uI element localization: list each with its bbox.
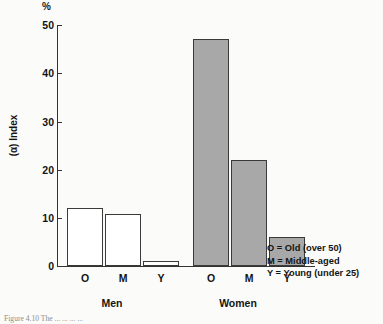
figure-caption: Figure 4.10 The ... ... ... ... bbox=[4, 315, 304, 324]
y-tick-label-10: 10 bbox=[28, 213, 54, 224]
cat-label-women-middle: M bbox=[238, 272, 260, 284]
figure-caption-text: Figure 4.10 The ... ... ... ... bbox=[4, 315, 83, 323]
y-tick-label-50: 50 bbox=[28, 20, 54, 31]
bar-women-middle bbox=[231, 160, 267, 266]
cat-label-men-young: Y bbox=[150, 272, 172, 284]
cat-label-men-old: O bbox=[74, 272, 96, 284]
y-tick-label-30: 30 bbox=[28, 117, 54, 128]
bar-men-young bbox=[143, 261, 179, 266]
y-axis-title: (α) Index bbox=[8, 101, 19, 171]
cat-label-women-old: O bbox=[200, 272, 222, 284]
plot-area bbox=[57, 25, 315, 266]
legend-item-old: O = Old (over 50) bbox=[267, 242, 359, 255]
group-label-women: Women bbox=[193, 297, 283, 309]
legend-item-young: Y = Young (under 25) bbox=[267, 267, 359, 280]
bar-men-old bbox=[67, 208, 103, 266]
y-tick-label-40: 40 bbox=[28, 68, 54, 79]
cat-label-men-middle: M bbox=[112, 272, 134, 284]
group-label-men: Men bbox=[67, 297, 157, 309]
y-tick-label-0: 0 bbox=[28, 261, 54, 272]
bar-men-middle bbox=[105, 214, 141, 266]
bar-chart-figure: % (α) Index 50 40 30 20 10 0 O M Y O M Y… bbox=[0, 0, 383, 324]
bar-women-old bbox=[193, 39, 229, 266]
y-tick-label-20: 20 bbox=[28, 165, 54, 176]
legend: O = Old (over 50) M = Middle-aged Y = Yo… bbox=[267, 242, 359, 280]
legend-item-middle-aged: M = Middle-aged bbox=[267, 255, 359, 268]
percent-unit-label: % bbox=[42, 1, 51, 12]
